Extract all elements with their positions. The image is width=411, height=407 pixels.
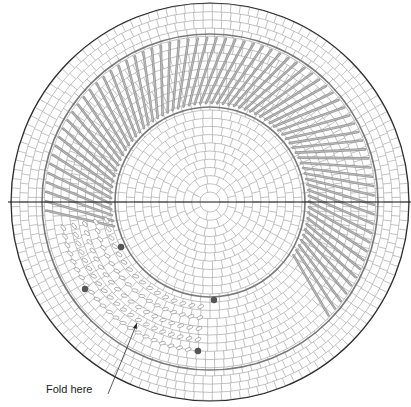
fold-here-label: Fold here — [46, 383, 92, 395]
paving-diagram — [0, 0, 411, 407]
fold-arrow — [108, 323, 137, 394]
